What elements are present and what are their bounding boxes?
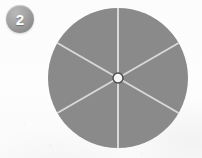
pie-chart	[48, 8, 188, 149]
step-number-label: 2	[16, 12, 24, 27]
pie-center-hub	[113, 73, 123, 83]
screenshot-canvas: 2	[0, 0, 202, 158]
pie-chart-svg	[48, 8, 188, 149]
step-number-badge: 2	[6, 5, 34, 33]
